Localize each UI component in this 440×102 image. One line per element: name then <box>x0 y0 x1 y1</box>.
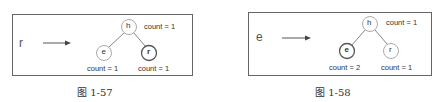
node-h-label: h <box>367 18 371 27</box>
figure-caption: 图 1-58 <box>315 84 351 99</box>
node-e-label: e <box>345 45 349 54</box>
figure-1-58-diagram <box>0 0 440 102</box>
node-r-count: count = 1 <box>381 63 412 72</box>
node-r-label: r <box>389 45 392 54</box>
edge-h-r <box>375 30 387 44</box>
edge-h-e <box>352 30 365 45</box>
node-h-count: count = 1 <box>386 18 417 27</box>
node-e-count: count = 2 <box>329 63 360 72</box>
input-char: e <box>256 30 263 44</box>
arrow-icon <box>282 36 311 41</box>
